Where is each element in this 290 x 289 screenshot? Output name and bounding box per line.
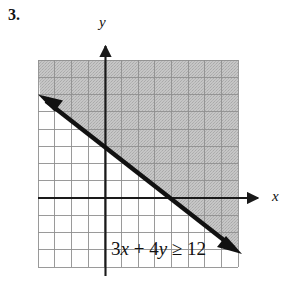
inequality-constant: 12 (187, 238, 206, 259)
inequality-coef-x: 3 (111, 238, 121, 259)
x-axis-label: x (272, 188, 279, 205)
inequality-var-x: x (121, 238, 129, 259)
inequality-coef-y: 4 (149, 238, 159, 259)
y-axis-label: y (99, 14, 106, 31)
inequality-relation: ≥ (172, 238, 182, 259)
inequality-var-y: y (159, 238, 167, 259)
problem-number: 3. (8, 6, 20, 24)
inequality-annotation: 3x + 4y ≥ 12 (111, 238, 206, 260)
inequality-plus: + (134, 238, 145, 259)
